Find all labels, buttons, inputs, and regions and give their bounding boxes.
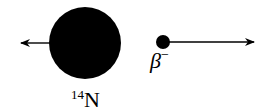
beta-label: β− bbox=[150, 50, 169, 72]
decay-diagram bbox=[0, 0, 276, 111]
nucleus-label: 14N bbox=[71, 89, 100, 111]
nucleus-circle bbox=[49, 7, 121, 79]
